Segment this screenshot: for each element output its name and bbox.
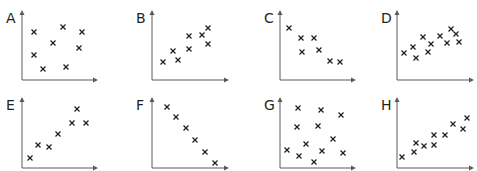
cross-marker-icon — [187, 34, 192, 39]
scatter-plot — [240, 85, 360, 171]
cross-marker-icon — [165, 105, 170, 110]
cross-marker-icon — [75, 107, 80, 112]
y-axis-arrow-icon — [395, 10, 400, 15]
cross-marker-icon — [193, 138, 198, 143]
cross-marker-icon — [341, 151, 346, 156]
cross-marker-icon — [77, 46, 82, 51]
cross-marker-icon — [328, 59, 333, 64]
cross-marker-icon — [412, 150, 417, 155]
cross-marker-icon — [451, 122, 456, 127]
cross-marker-icon — [203, 150, 208, 155]
x-axis-arrow-icon — [351, 166, 356, 171]
cross-marker-icon — [171, 49, 176, 54]
cross-marker-icon — [457, 40, 462, 45]
cross-marker-icon — [213, 161, 218, 166]
scatter-panel-d: D — [357, 0, 477, 86]
x-axis-arrow-icon — [469, 78, 474, 83]
scatter-panel-b: B — [120, 0, 240, 86]
cross-marker-icon — [296, 106, 301, 111]
cross-marker-icon — [319, 108, 324, 113]
scatter-panel-g: G — [240, 85, 360, 171]
cross-marker-icon — [312, 36, 317, 41]
cross-marker-icon — [438, 34, 443, 39]
cross-marker-icon — [461, 127, 466, 132]
cross-marker-icon — [176, 58, 181, 63]
cross-marker-icon — [32, 53, 37, 58]
y-axis-arrow-icon — [395, 97, 400, 102]
scatter-panel-c: C — [240, 0, 360, 86]
scatter-plot — [357, 0, 477, 86]
cross-marker-icon — [299, 36, 304, 41]
cross-marker-icon — [295, 125, 300, 130]
cross-marker-icon — [206, 42, 211, 47]
cross-marker-icon — [414, 56, 419, 61]
x-axis-arrow-icon — [351, 78, 356, 83]
x-axis-arrow-icon — [224, 78, 229, 83]
cross-marker-icon — [432, 143, 437, 148]
cross-marker-icon — [300, 50, 305, 55]
scatter-plot — [357, 85, 477, 171]
cross-marker-icon — [206, 26, 211, 31]
cross-marker-icon — [304, 142, 309, 147]
cross-marker-icon — [317, 48, 322, 53]
x-axis-arrow-icon — [469, 166, 474, 171]
y-axis-arrow-icon — [20, 10, 25, 15]
y-axis-arrow-icon — [20, 97, 25, 102]
cross-marker-icon — [465, 116, 470, 121]
scatter-plot — [120, 85, 240, 171]
cross-marker-icon — [421, 35, 426, 40]
cross-marker-icon — [426, 50, 431, 55]
cross-marker-icon — [449, 27, 454, 32]
cross-marker-icon — [32, 30, 37, 35]
scatter-panel-a: A — [0, 0, 120, 86]
cross-marker-icon — [445, 41, 450, 46]
y-axis-arrow-icon — [150, 97, 155, 102]
y-axis-arrow-icon — [150, 10, 155, 15]
cross-marker-icon — [339, 113, 344, 118]
y-axis-arrow-icon — [278, 97, 283, 102]
cross-marker-icon — [70, 121, 75, 126]
cross-marker-icon — [411, 45, 416, 50]
cross-marker-icon — [297, 154, 302, 159]
cross-marker-icon — [61, 25, 66, 30]
x-axis-arrow-icon — [93, 78, 98, 83]
cross-marker-icon — [316, 124, 321, 129]
cross-marker-icon — [338, 60, 343, 65]
cross-marker-icon — [312, 160, 317, 165]
cross-marker-icon — [454, 32, 459, 37]
cross-marker-icon — [400, 155, 405, 160]
cross-marker-icon — [47, 145, 52, 150]
scatter-plot — [120, 0, 240, 86]
cross-marker-icon — [414, 141, 419, 146]
cross-marker-icon — [184, 126, 189, 131]
cross-marker-icon — [28, 156, 33, 161]
cross-marker-icon — [51, 41, 56, 46]
scatter-panel-f: F — [120, 85, 240, 171]
y-axis-arrow-icon — [278, 10, 283, 15]
scatter-panel-h: H — [357, 85, 477, 171]
x-axis-arrow-icon — [224, 166, 229, 171]
scatter-plot — [0, 0, 120, 86]
cross-marker-icon — [432, 133, 437, 138]
cross-marker-icon — [80, 30, 85, 35]
x-axis-arrow-icon — [93, 166, 98, 171]
cross-marker-icon — [331, 137, 336, 142]
cross-marker-icon — [36, 143, 41, 148]
scatter-plot — [240, 0, 360, 86]
cross-marker-icon — [443, 133, 448, 138]
scatter-plot — [0, 85, 120, 171]
cross-marker-icon — [287, 26, 292, 31]
cross-marker-icon — [64, 65, 69, 70]
cross-marker-icon — [429, 42, 434, 47]
cross-marker-icon — [402, 51, 407, 56]
cross-marker-icon — [161, 60, 166, 65]
cross-marker-icon — [200, 33, 205, 38]
cross-marker-icon — [187, 47, 192, 52]
cross-marker-icon — [174, 115, 179, 120]
cross-marker-icon — [41, 67, 46, 72]
cross-marker-icon — [285, 148, 290, 153]
cross-marker-icon — [56, 132, 61, 137]
scatter-panel-e: E — [0, 85, 120, 171]
cross-marker-icon — [422, 144, 427, 149]
cross-marker-icon — [84, 121, 89, 126]
